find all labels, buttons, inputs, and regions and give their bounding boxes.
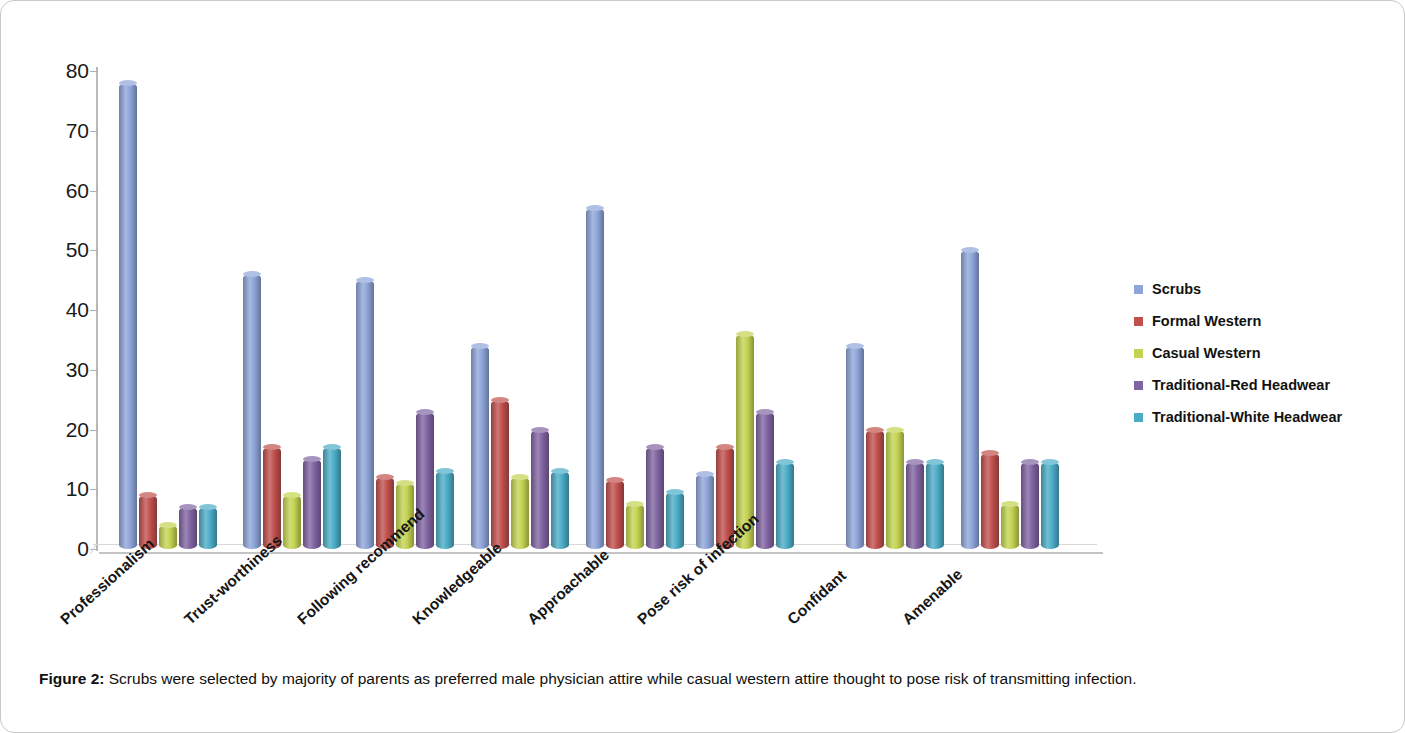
- x-axis-category-label: Following recommend: [294, 505, 428, 628]
- legend-item: Casual Western: [1134, 337, 1394, 369]
- x-axis-category-label: Approachable: [524, 546, 613, 629]
- x-axis-category-label: Knowledgeable: [409, 539, 506, 628]
- x-axis-category-label: Amenable: [899, 565, 966, 628]
- figure-caption-text: Scrubs were selected by majority of pare…: [104, 670, 1136, 687]
- figure-container: 80706050403020100 ProfessionalismTrust-w…: [0, 0, 1405, 733]
- legend-color-swatch: [1134, 349, 1143, 358]
- x-axis-category-label: Trust-worthiness: [181, 531, 286, 628]
- legend-color-swatch: [1134, 381, 1143, 390]
- legend-label: Traditional-Red Headwear: [1152, 377, 1330, 393]
- legend-label: Formal Western: [1152, 313, 1261, 329]
- x-axis-category-label: Pose risk of infection: [634, 510, 763, 628]
- legend-item: Formal Western: [1134, 305, 1394, 337]
- legend-label: Traditional-White Headwear: [1152, 409, 1342, 425]
- chart-legend: ScrubsFormal WesternCasual WesternTradit…: [1134, 273, 1394, 433]
- x-axis-category-label: Confidant: [784, 567, 850, 629]
- legend-item: Traditional-Red Headwear: [1134, 369, 1394, 401]
- legend-color-swatch: [1134, 317, 1143, 326]
- figure-caption: Figure 2: Scrubs were selected by majori…: [39, 669, 1379, 690]
- legend-item: Scrubs: [1134, 273, 1394, 305]
- legend-item: Traditional-White Headwear: [1134, 401, 1394, 433]
- legend-color-swatch: [1134, 413, 1143, 422]
- legend-label: Casual Western: [1152, 345, 1261, 361]
- x-axis-category-label: Professionalism: [57, 535, 158, 629]
- legend-color-swatch: [1134, 285, 1143, 294]
- legend-label: Scrubs: [1152, 281, 1201, 297]
- figure-caption-label: Figure 2:: [39, 670, 104, 687]
